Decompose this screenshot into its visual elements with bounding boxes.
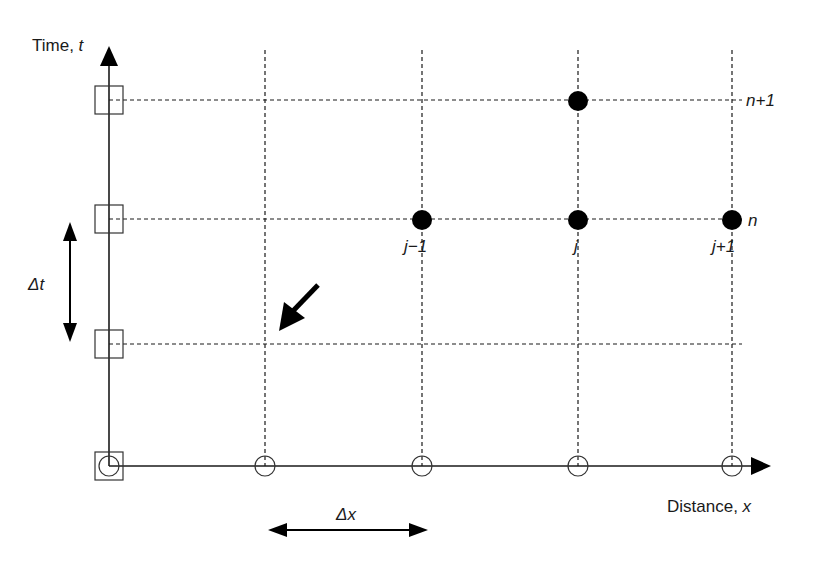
fd-grid-diagram: Time, t Distance, x Δt Δx n+1 n j−1 j j+… bbox=[0, 0, 817, 571]
row-label-n: n bbox=[748, 211, 757, 230]
node-j-minus-1-n bbox=[412, 210, 432, 230]
delta-t-label: Δt bbox=[27, 275, 45, 294]
node-j-plus-1-n bbox=[722, 210, 742, 230]
delta-t-arrow-icon bbox=[63, 222, 77, 342]
time-axis-arrowhead-icon bbox=[100, 46, 118, 66]
pointer-arrow-icon bbox=[279, 285, 318, 331]
time-axis-label: Time, t bbox=[32, 36, 85, 55]
delta-x-arrow-icon bbox=[268, 523, 428, 537]
node-j-n-plus-1 bbox=[568, 91, 588, 111]
distance-axis-arrowhead-icon bbox=[751, 457, 771, 475]
row-label-n-plus-1: n+1 bbox=[746, 91, 775, 110]
distance-axis-label: Distance, x bbox=[667, 497, 752, 516]
col-label-j-minus-1: j−1 bbox=[402, 237, 427, 256]
col-label-j-plus-1: j+1 bbox=[710, 237, 735, 256]
vertical-grid-lines bbox=[265, 50, 732, 466]
filled-nodes bbox=[412, 91, 742, 230]
node-j-n bbox=[568, 210, 588, 230]
delta-x-label: Δx bbox=[335, 505, 356, 524]
